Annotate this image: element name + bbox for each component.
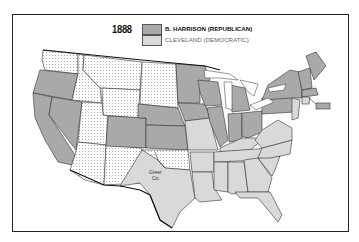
state-colorado [106,116,146,148]
state-florida [235,192,282,222]
state-kansas [146,125,188,150]
state-new-jersey [292,98,300,120]
territory-dakota [140,62,178,108]
greer-county-label-2: Co. [152,175,160,181]
territory-washington [42,50,78,74]
state-wisconsin [198,80,222,106]
state-connecticut [302,97,310,104]
state-indiana [228,113,242,142]
state-arkansas [190,152,214,172]
us-map: Greer Co. [0,0,359,242]
state-mississippi [214,162,228,192]
state-rhode-island-inset [316,103,330,109]
territory-wyoming [102,88,140,118]
